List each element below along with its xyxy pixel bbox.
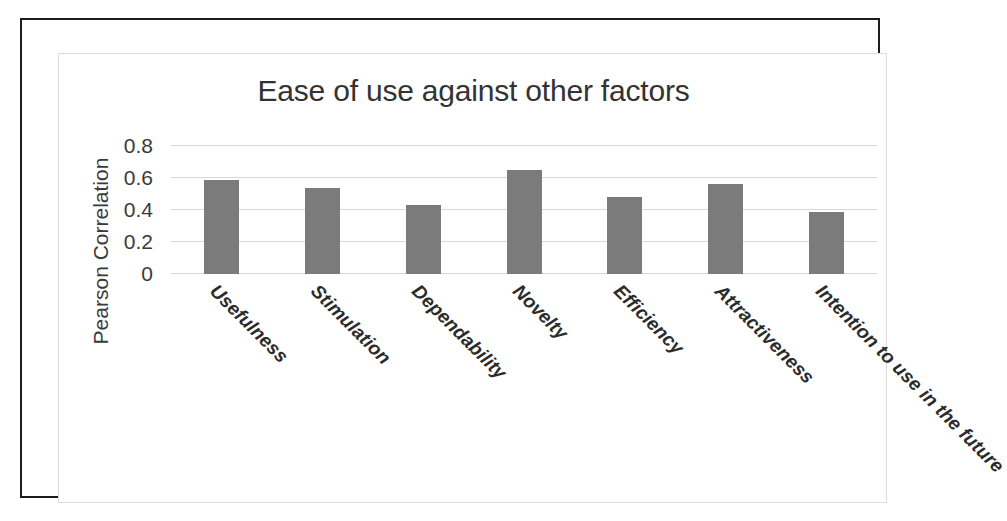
- x-axis-tick-label: Attractiveness: [710, 280, 818, 388]
- bar: [406, 205, 441, 274]
- gridline: [171, 145, 877, 146]
- y-axis-tick-label: 0.6: [124, 166, 153, 190]
- bar: [708, 184, 743, 274]
- bar: [305, 188, 340, 274]
- plot-area: 00.20.40.60.8 UsefulnessStimulationDepen…: [171, 146, 877, 274]
- x-axis-tick-label: Usefulness: [206, 280, 293, 367]
- chart-container: Ease of use against other factors Pearso…: [58, 53, 887, 503]
- y-axis-tick-label: 0.4: [124, 198, 153, 222]
- y-axis-tick-label: 0: [141, 262, 153, 286]
- bar: [507, 170, 542, 274]
- x-axis-tick-label: Dependability: [407, 280, 511, 384]
- bar: [809, 212, 844, 274]
- bar: [204, 180, 239, 274]
- x-axis-tick-label: Intention to use in the future: [811, 280, 1007, 477]
- x-axis-tick-label: Stimulation: [307, 280, 396, 369]
- y-axis-tick-label: 0.8: [124, 134, 153, 158]
- chart-title: Ease of use against other factors: [59, 74, 888, 108]
- x-axis-tick-label: Efficiency: [609, 280, 688, 359]
- y-axis-tick-label: 0.2: [124, 230, 153, 254]
- page-border: Ease of use against other factors Pearso…: [20, 18, 880, 498]
- x-axis-tick-label: Novelty: [508, 280, 572, 344]
- y-axis-title: Pearson Correlation: [89, 146, 113, 356]
- bar: [607, 197, 642, 274]
